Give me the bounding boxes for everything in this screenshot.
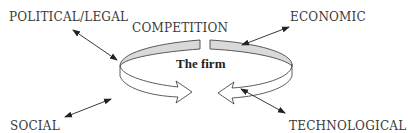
ring-arrow-right	[176, 81, 192, 103]
ring-arrow-left	[218, 82, 234, 104]
label-competition: COMPETITION	[132, 22, 228, 34]
label-social: SOCIAL	[10, 120, 60, 132]
label-political-legal: POLITICAL/LEGAL	[9, 11, 128, 23]
arrow-economic	[242, 27, 289, 45]
environment-diagram: POLITICAL/LEGAL COMPETITION ECONOMIC SOC…	[0, 0, 408, 133]
arrow-social	[65, 99, 111, 117]
label-technological: TECHNOLOGICAL	[289, 120, 406, 132]
arrow-political	[73, 30, 117, 60]
label-the-firm: The firm	[176, 57, 225, 70]
arrow-technological	[241, 89, 285, 113]
label-economic: ECONOMIC	[290, 11, 366, 23]
